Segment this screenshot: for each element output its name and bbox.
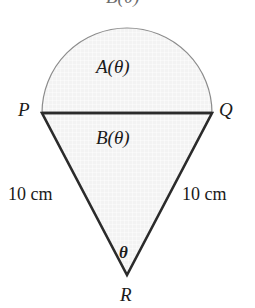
vertex-label-q: Q — [219, 100, 233, 119]
geometry-figure: B(θ) A(θ) B(θ) P Q R 10 cm 10 cm θ — [0, 0, 255, 308]
vertex-label-p: P — [18, 100, 30, 119]
region-label-b: B(θ) — [96, 128, 130, 147]
side-length-right: 10 cm — [182, 185, 227, 203]
clipped-top-label: B(θ) — [106, 0, 140, 6]
side-length-left: 10 cm — [8, 185, 53, 203]
angle-label-theta: θ — [119, 244, 128, 261]
vertex-label-r: R — [120, 285, 132, 304]
region-label-a: A(θ) — [96, 57, 130, 76]
